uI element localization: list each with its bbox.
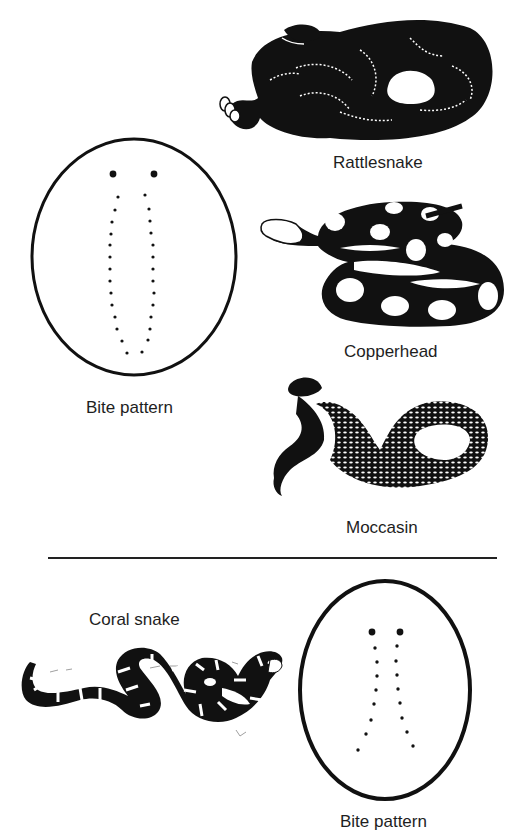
- tooth-mark: [110, 303, 113, 306]
- tooth-mark: [364, 732, 367, 735]
- tooth-mark: [395, 673, 398, 676]
- tooth-mark: [151, 255, 154, 258]
- tooth-mark: [374, 688, 377, 691]
- tooth-mark: [148, 219, 151, 222]
- tooth-marks-bottom: [356, 644, 414, 751]
- tooth-mark: [356, 748, 359, 751]
- tooth-mark: [151, 267, 154, 270]
- moccasin-icon: [0, 0, 508, 838]
- tooth-mark: [147, 207, 150, 210]
- tooth-mark: [149, 315, 152, 318]
- tooth-mark: [151, 279, 154, 282]
- rattlesnake-label: Rattlesnake: [333, 153, 423, 173]
- tooth-mark: [394, 659, 397, 662]
- bite-pattern-oval-top: [0, 0, 508, 838]
- tooth-mark: [148, 327, 151, 330]
- tooth-mark: [152, 291, 155, 294]
- tooth-mark: [149, 231, 152, 234]
- tooth-marks-top: [108, 193, 155, 354]
- tooth-mark: [151, 303, 154, 306]
- tooth-mark: [400, 716, 403, 719]
- fang-marks-bottom: [369, 629, 404, 636]
- tooth-mark: [109, 291, 112, 294]
- tooth-mark: [146, 338, 149, 341]
- tooth-mark: [108, 279, 111, 282]
- tooth-mark: [110, 220, 113, 223]
- tooth-mark: [108, 255, 111, 258]
- rattle: [220, 97, 240, 122]
- bite-pattern-oval-bottom: [0, 0, 508, 838]
- tooth-mark: [372, 702, 375, 705]
- bite-pattern-label-bottom: Bite pattern: [340, 812, 427, 832]
- moccasin-label: Moccasin: [346, 518, 418, 538]
- tooth-mark: [411, 744, 414, 747]
- bite-pattern-label-top: Bite pattern: [86, 398, 173, 418]
- tooth-mark: [108, 243, 111, 246]
- coral-snake-label: Coral snake: [89, 610, 180, 630]
- rattlesnake-icon: [0, 0, 508, 838]
- tooth-mark: [109, 232, 112, 235]
- fang-marks-top: [110, 171, 158, 178]
- tooth-mark: [398, 701, 401, 704]
- tooth-mark: [113, 208, 116, 211]
- tooth-mark: [113, 315, 116, 318]
- coral-snake-icon: [0, 0, 508, 838]
- tooth-mark: [396, 687, 399, 690]
- tooth-mark: [143, 193, 146, 196]
- tooth-mark: [120, 339, 123, 342]
- copperhead-label: Copperhead: [344, 342, 438, 362]
- tooth-mark: [125, 351, 128, 354]
- tooth-mark: [369, 718, 372, 721]
- tooth-mark: [151, 243, 154, 246]
- tooth-mark: [373, 646, 376, 649]
- section-divider: [48, 557, 497, 559]
- tooth-mark: [405, 730, 408, 733]
- tooth-mark: [375, 674, 378, 677]
- tooth-mark: [395, 644, 398, 647]
- tooth-mark: [116, 195, 119, 198]
- copperhead-icon: [0, 0, 508, 838]
- tooth-mark: [108, 267, 111, 270]
- tooth-mark: [140, 350, 143, 353]
- tooth-mark: [375, 660, 378, 663]
- tooth-mark: [115, 327, 118, 330]
